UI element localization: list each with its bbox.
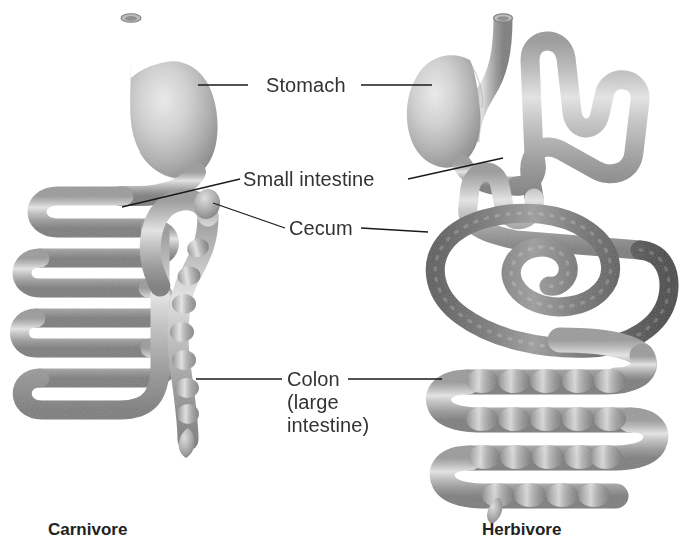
label-colon: Colon <box>287 368 340 391</box>
carnivore-stomach <box>120 60 218 196</box>
caption-herbivore: Herbivore <box>482 520 561 540</box>
anatomy-diagram: Stomach Small intestine Cecum Colon (lar… <box>0 0 685 550</box>
caption-carnivore: Carnivore <box>48 520 127 540</box>
label-colon-line3: intestine) <box>287 414 369 437</box>
label-small-intestine: Small intestine <box>243 168 375 191</box>
leader-cecum-right <box>361 228 428 232</box>
label-cecum: Cecum <box>289 217 353 240</box>
label-colon-line2: (large <box>287 391 339 414</box>
label-stomach: Stomach <box>266 74 346 97</box>
carnivore-figure <box>20 14 223 458</box>
herbivore-figure <box>407 14 669 524</box>
leader-cecum-left <box>213 203 285 228</box>
